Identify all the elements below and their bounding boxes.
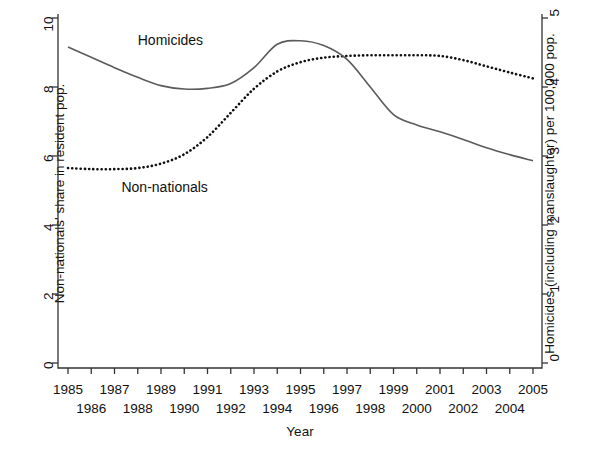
y-tick-label-right-0: 0 [547, 338, 562, 362]
series-label-non-nationals: Non-nationals [121, 179, 207, 195]
y-tick-label-left-2: 2 [41, 293, 56, 317]
x-tick-label-1995: 1995 [279, 382, 323, 397]
x-tick-label-2003: 2003 [465, 382, 509, 397]
y-tick-label-right-1: 1 [547, 269, 562, 293]
y-tick-label-left-4: 4 [41, 224, 56, 248]
y-tick-label-left-6: 6 [41, 155, 56, 179]
x-tick-label-1988: 1988 [116, 401, 160, 416]
y-tick-label-right-4: 4 [547, 62, 562, 86]
x-tick-label-1986: 1986 [69, 401, 113, 416]
series-label-homicides: Homicides [138, 32, 203, 48]
x-tick-label-2000: 2000 [395, 401, 439, 416]
x-tick-label-1993: 1993 [232, 382, 276, 397]
y-tick-label-left-10: 10 [41, 17, 56, 41]
series-path-non-nationals [68, 55, 533, 169]
x-tick-label-2002: 2002 [441, 401, 485, 416]
y-tick-label-left-8: 8 [41, 86, 56, 110]
x-tick-label-2005: 2005 [511, 382, 555, 397]
y-tick-label-right-3: 3 [547, 131, 562, 155]
y-tick-label-right-2: 2 [547, 200, 562, 224]
series-path-homicides [68, 41, 533, 161]
x-tick-label-1997: 1997 [325, 382, 369, 397]
y-tick-label-right-5: 5 [547, 0, 562, 17]
x-tick-label-1991: 1991 [186, 382, 230, 397]
x-tick-label-1987: 1987 [93, 382, 137, 397]
x-tick-label-1994: 1994 [255, 401, 299, 416]
x-tick-label-1999: 1999 [372, 382, 416, 397]
x-tick-label-1992: 1992 [209, 401, 253, 416]
x-tick-label-2004: 2004 [488, 401, 532, 416]
x-tick-label-1989: 1989 [139, 382, 183, 397]
x-tick-label-1998: 1998 [348, 401, 392, 416]
x-tick-label-1996: 1996 [302, 401, 346, 416]
x-tick-label-1990: 1990 [162, 401, 206, 416]
x-tick-label-1985: 1985 [46, 382, 90, 397]
x-tick-label-2001: 2001 [418, 382, 462, 397]
chart-figure: Non-nationals' share in resident pop. Ho… [0, 0, 600, 450]
